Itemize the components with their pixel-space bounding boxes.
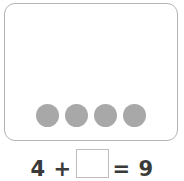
- equation-row: 4 + = 9: [0, 147, 184, 181]
- math-worksheet-widget: 4 + = 9: [0, 0, 184, 181]
- counter-card: [4, 3, 178, 141]
- counter-row: [5, 103, 177, 127]
- counter-dot: [36, 104, 59, 127]
- counter-dot: [94, 104, 117, 127]
- equation-left-expression: 4 +: [30, 159, 71, 180]
- counter-dot: [123, 104, 146, 127]
- counter-dot: [65, 104, 88, 127]
- answer-input-box[interactable]: [76, 149, 109, 178]
- equation-right-expression: = 9: [113, 159, 154, 180]
